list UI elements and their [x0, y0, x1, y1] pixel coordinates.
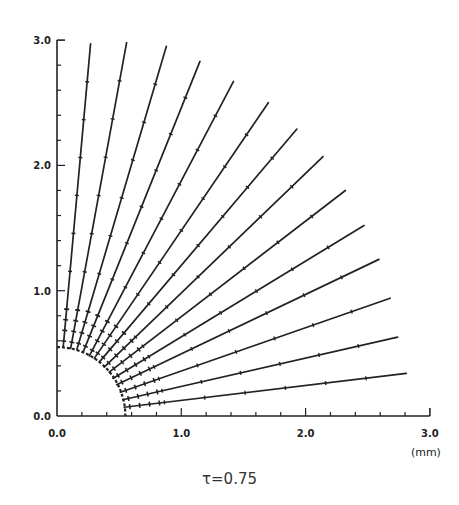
trajectory-line — [117, 259, 379, 384]
trajectory-lines — [57, 43, 406, 416]
y-tick-label: 2.0 — [33, 160, 51, 171]
x-axis-unit: (mm) — [411, 446, 441, 459]
x-tick-label: 1.0 — [172, 428, 190, 439]
y-tick-label: 3.0 — [33, 35, 51, 46]
y-tick-label: 0.0 — [33, 411, 51, 422]
y-tick-label: 1.0 — [33, 286, 51, 297]
flow-line-chart: 0.01.02.03.00.01.02.03.0(mm) — [0, 0, 459, 505]
trajectory-line — [104, 157, 323, 368]
chart-caption: τ=0.75 — [0, 470, 459, 488]
tick-labels: 0.01.02.03.00.01.02.03.0(mm) — [33, 35, 441, 459]
x-tick-label: 2.0 — [297, 428, 315, 439]
x-tick-label: 0.0 — [48, 428, 66, 439]
trajectory-line — [109, 190, 345, 372]
x-tick-label: 3.0 — [421, 428, 439, 439]
